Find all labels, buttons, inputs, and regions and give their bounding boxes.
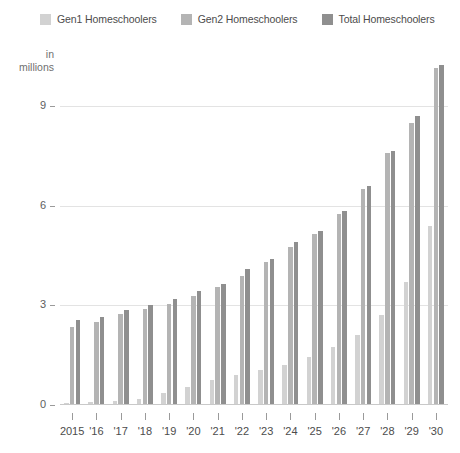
- bar-gen2-29: [409, 123, 414, 405]
- y-axis-unit-line2: millions: [8, 61, 54, 74]
- bar-group-19: [161, 60, 177, 405]
- bar-total-28: [391, 151, 396, 405]
- bar-group-27: [355, 60, 371, 405]
- bar-group-26: [331, 60, 347, 405]
- x-tick-25: [315, 413, 316, 420]
- bar-gen1-22: [234, 375, 239, 405]
- x-tick-27: [363, 413, 364, 420]
- x-tick-22: [242, 413, 243, 420]
- bar-group-23: [258, 60, 274, 405]
- bar-group-30: [428, 60, 444, 405]
- bar-total-18: [148, 305, 153, 405]
- x-tick-21: [218, 413, 219, 420]
- bar-gen2-21: [215, 287, 220, 405]
- bar-group-22: [234, 60, 250, 405]
- bar-gen2-23: [264, 262, 269, 405]
- y-tick-dash-0: [50, 405, 55, 406]
- bar-total-23: [270, 259, 275, 405]
- bar-total-17: [124, 310, 129, 405]
- bar-total-27: [367, 186, 372, 405]
- x-tick-2015: [72, 413, 73, 420]
- y-tick-label-6: 6: [26, 199, 46, 211]
- bar-gen2-17: [118, 314, 123, 405]
- bars-layer: [60, 60, 448, 405]
- bar-gen1-30: [428, 226, 433, 405]
- legend-label-gen1: Gen1 Homeschoolers: [57, 13, 157, 25]
- x-tick-17: [121, 413, 122, 420]
- bar-gen2-22: [240, 276, 245, 405]
- bar-gen1-23: [258, 370, 263, 405]
- bar-group-17: [113, 60, 129, 405]
- x-tick-20: [193, 413, 194, 420]
- x-tick-30: [436, 413, 437, 420]
- legend-swatch-gen2-icon: [181, 14, 192, 25]
- bar-gen2-28: [385, 153, 390, 405]
- bar-group-29: [404, 60, 420, 405]
- axis-baseline: [60, 404, 448, 405]
- bar-group-24: [282, 60, 298, 405]
- bar-group-28: [379, 60, 395, 405]
- legend-label-total: Total Homeschoolers: [339, 13, 435, 25]
- legend-item-gen2: Gen2 Homeschoolers: [181, 13, 298, 25]
- legend-label-gen2: Gen2 Homeschoolers: [198, 13, 298, 25]
- bar-gen1-27: [355, 335, 360, 405]
- y-tick-label-3: 3: [26, 298, 46, 310]
- bar-gen2-26: [337, 214, 342, 405]
- bar-total-16: [100, 317, 105, 405]
- x-tick-28: [387, 413, 388, 420]
- legend-swatch-gen1-icon: [40, 14, 51, 25]
- bar-total-24: [294, 242, 299, 405]
- x-tick-23: [266, 413, 267, 420]
- bar-gen1-21: [210, 380, 215, 405]
- bar-gen1-28: [379, 315, 384, 405]
- y-tick-dash-6: [50, 206, 55, 207]
- x-tick-26: [339, 413, 340, 420]
- bar-total-2015: [76, 320, 81, 405]
- x-tick-16: [96, 413, 97, 420]
- bar-group-25: [307, 60, 323, 405]
- y-axis-unit-caption: in millions: [8, 48, 54, 74]
- plot-area: [60, 60, 448, 405]
- y-tick-dash-9: [50, 106, 55, 107]
- bar-gen2-19: [167, 304, 172, 405]
- bar-total-25: [318, 231, 323, 405]
- bar-total-29: [415, 116, 420, 405]
- bar-gen1-26: [331, 347, 336, 405]
- bar-gen2-2015: [70, 327, 75, 405]
- bar-gen2-18: [143, 309, 148, 405]
- y-axis-unit-line1: in: [8, 48, 54, 61]
- x-tick-18: [145, 413, 146, 420]
- bar-total-21: [221, 284, 226, 405]
- bar-group-21: [210, 60, 226, 405]
- y-tick-dash-3: [50, 305, 55, 306]
- bar-group-20: [185, 60, 201, 405]
- y-tick-label-9: 9: [26, 99, 46, 111]
- x-tick-19: [169, 413, 170, 420]
- bar-group-2015: [64, 60, 80, 405]
- bar-gen1-25: [307, 357, 312, 405]
- bar-gen2-30: [434, 68, 439, 405]
- bar-gen1-24: [282, 365, 287, 405]
- homeschoolers-bar-chart: Gen1 Homeschoolers Gen2 Homeschoolers To…: [0, 0, 460, 453]
- bar-gen2-24: [288, 247, 293, 405]
- legend-item-gen1: Gen1 Homeschoolers: [40, 13, 157, 25]
- bar-total-30: [439, 65, 444, 405]
- legend-item-total: Total Homeschoolers: [322, 13, 435, 25]
- bar-group-18: [137, 60, 153, 405]
- bar-gen1-29: [404, 282, 409, 405]
- bar-gen2-25: [312, 234, 317, 405]
- bar-total-19: [173, 299, 178, 405]
- bar-total-26: [342, 211, 347, 405]
- bar-group-16: [88, 60, 104, 405]
- bar-gen2-20: [191, 296, 196, 405]
- bar-gen1-20: [185, 387, 190, 405]
- x-label-30: '30: [414, 425, 458, 437]
- chart-legend: Gen1 Homeschoolers Gen2 Homeschoolers To…: [40, 11, 459, 27]
- x-tick-29: [412, 413, 413, 420]
- y-tick-label-0: 0: [26, 398, 46, 410]
- bar-total-22: [245, 269, 250, 405]
- bar-gen2-16: [94, 322, 99, 405]
- bar-total-20: [197, 291, 202, 405]
- legend-swatch-total-icon: [322, 14, 333, 25]
- x-tick-24: [290, 413, 291, 420]
